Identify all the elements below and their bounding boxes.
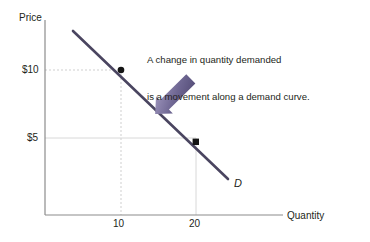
annotation-line-1: A change in quantity demanded <box>147 54 310 66</box>
y-axis-label: Price <box>19 12 42 24</box>
data-point-10-10 <box>118 67 125 74</box>
demand-curve-label: D <box>234 177 242 189</box>
x-tick-label-10: 10 <box>113 218 124 230</box>
demand-curve-figure: Price Quantity $10 $5 10 20 D A change i… <box>0 0 370 242</box>
y-tick-label-5: $5 <box>27 132 38 144</box>
annotation-text: A change in quantity demanded is a movem… <box>147 30 310 128</box>
data-point-20-5 <box>193 139 199 145</box>
x-axis-label: Quantity <box>287 210 324 222</box>
annotation-line-2: is a movement along a demand curve. <box>147 91 310 103</box>
x-tick-label-20: 20 <box>189 218 200 230</box>
y-tick-label-10: $10 <box>22 64 39 76</box>
